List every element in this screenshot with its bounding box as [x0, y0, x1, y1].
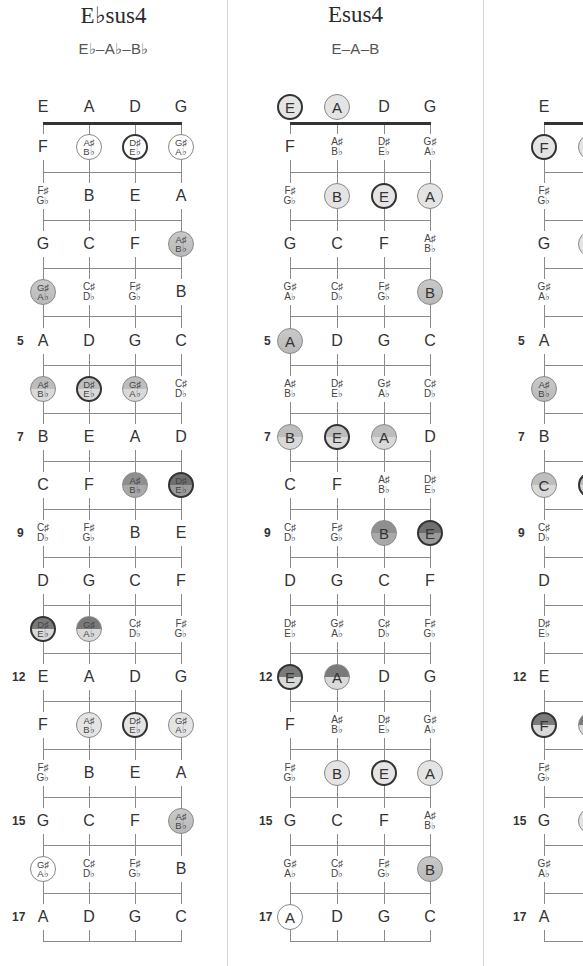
note-name: E♭ — [538, 629, 550, 639]
note-label: G — [279, 808, 301, 834]
note-label: F♯G♭ — [326, 520, 348, 546]
enharmonic-label: D♯E♭ — [284, 619, 296, 639]
fret-line — [544, 941, 583, 942]
enharmonic-label: F♯G♭ — [284, 763, 297, 783]
note-label: G — [326, 568, 348, 594]
note-label: B — [533, 424, 555, 450]
note-marker — [578, 712, 583, 738]
note-name: F — [539, 140, 548, 155]
fret-line — [544, 220, 583, 221]
note-label: D — [326, 328, 348, 354]
note-marker: E — [417, 520, 443, 546]
note-name: B♭ — [424, 244, 436, 254]
enharmonic-label: F♯G♭ — [538, 763, 551, 783]
note-name: A♭ — [284, 292, 296, 302]
fret-line — [544, 749, 583, 750]
note-name: C — [539, 478, 550, 493]
enharmonic-label: G♯A♭ — [538, 282, 551, 302]
note-label: D♯E♭ — [279, 616, 301, 642]
note-marker: A — [324, 94, 350, 120]
fret-line — [290, 509, 431, 510]
note-name: E — [379, 189, 389, 204]
note-name: F — [332, 477, 342, 493]
note-label: C — [326, 808, 348, 834]
note-label: G — [533, 808, 555, 834]
note-marker: B — [417, 279, 443, 305]
note-name: F — [379, 813, 389, 829]
note-name: B♭ — [284, 389, 296, 399]
enharmonic-label: C♯D♭ — [331, 859, 343, 879]
note-name: E♭ — [331, 389, 343, 399]
fret-number: 12 — [259, 670, 272, 684]
note-label: G — [279, 231, 301, 257]
note-name: A — [539, 333, 550, 349]
note-marker: E — [277, 94, 303, 120]
note-name: A — [285, 910, 295, 925]
note-name: A♭ — [331, 629, 343, 639]
fret-line — [290, 605, 431, 606]
note-name: C — [331, 236, 343, 252]
note-name: A — [379, 430, 389, 445]
note-label: G — [373, 328, 395, 354]
note-name: B — [285, 430, 295, 445]
note-label: D♯E♭ — [373, 712, 395, 738]
note-name: B♭ — [331, 725, 343, 735]
enharmonic-label: G♯A♭ — [424, 137, 437, 157]
note-label: G♯A♭ — [279, 279, 301, 305]
note-name: G♭ — [424, 629, 437, 639]
enharmonic-label: G♯A♭ — [378, 379, 391, 399]
note-name: D♭ — [378, 629, 390, 639]
enharmonic-label: A♯B♭ — [538, 380, 549, 399]
fret-number: 7 — [518, 430, 525, 444]
enharmonic-label: A♯B♭ — [284, 379, 296, 399]
note-marker — [578, 808, 583, 834]
fret-line — [290, 268, 431, 269]
note-label: C♯D♭ — [533, 520, 555, 546]
note-name: E♭ — [424, 485, 436, 495]
note-label: G — [533, 231, 555, 257]
note-label: G♯A♭ — [419, 712, 441, 738]
enharmonic-label: G♯A♭ — [331, 619, 344, 639]
fret-line — [290, 893, 431, 894]
fret-number: 5 — [264, 334, 271, 348]
note-label: C — [326, 231, 348, 257]
note-name: G♭ — [538, 773, 551, 783]
note-name: D — [331, 333, 343, 349]
note-marker — [578, 134, 583, 160]
note-name: A♭ — [424, 147, 436, 157]
note-name: G — [538, 813, 550, 829]
note-label: C — [373, 568, 395, 594]
note-name: C — [331, 813, 343, 829]
note-name: A — [425, 189, 435, 204]
note-name: G♭ — [284, 196, 297, 206]
fret-line — [290, 701, 431, 702]
note-name: G♭ — [331, 533, 344, 543]
note-name: C — [378, 573, 390, 589]
note-label: A♯B♭ — [419, 808, 441, 834]
fret-line — [290, 365, 431, 366]
note-marker: E — [371, 183, 397, 209]
note-label: C♯D♭ — [326, 279, 348, 305]
note-label: F — [279, 712, 301, 738]
fret-line — [290, 749, 431, 750]
note-name: C — [424, 909, 436, 925]
note-name: D♭ — [284, 533, 296, 543]
note-label: F♯G♭ — [533, 183, 555, 209]
enharmonic-label: C♯D♭ — [378, 619, 390, 639]
note-label: A♯B♭ — [419, 231, 441, 257]
note-name: B — [425, 285, 435, 300]
note-marker: B — [324, 183, 350, 209]
fret-line — [544, 509, 583, 510]
fret-line — [544, 845, 583, 846]
note-name: A♭ — [424, 725, 436, 735]
note-label: F — [419, 568, 441, 594]
enharmonic-label: G♯A♭ — [538, 859, 551, 879]
note-marker: E — [371, 760, 397, 786]
note-name: G — [284, 236, 296, 252]
note-label: D♯E♭ — [419, 472, 441, 498]
enharmonic-label: A♯B♭ — [331, 715, 343, 735]
note-label: G — [419, 94, 441, 120]
enharmonic-label: D♯E♭ — [378, 715, 390, 735]
note-label: F♯G♭ — [419, 616, 441, 642]
note-label: G — [373, 904, 395, 930]
